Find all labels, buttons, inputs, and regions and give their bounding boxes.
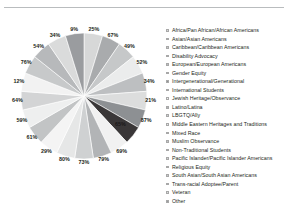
pie-chart-page: 25%67%49%52%34%21%87%65%69%79%73%80%29%6… bbox=[0, 0, 288, 215]
legend-item-label: Caribbean/Caribbean Americans bbox=[172, 43, 249, 52]
legend-item-label: Other bbox=[172, 197, 185, 206]
pie-slice-value-label: 21% bbox=[145, 97, 156, 103]
chart-legend: Africa/Pan African/African AmericansAsia… bbox=[166, 26, 286, 205]
legend-item-label: Asian/Asian Americans bbox=[172, 35, 227, 44]
legend-swatch-icon bbox=[166, 97, 169, 100]
legend-item[interactable]: LBGTQ/Ally bbox=[166, 111, 286, 120]
chart-area: 25%67%49%52%34%21%87%65%69%79%73%80%29%6… bbox=[8, 22, 160, 202]
legend-item[interactable]: Veteran bbox=[166, 188, 286, 197]
pie-slice-value-label: 59% bbox=[16, 117, 27, 123]
header-divider bbox=[4, 7, 284, 8]
legend-swatch-icon bbox=[166, 149, 169, 152]
legend-item-label: Jewish Heritage/Observance bbox=[172, 94, 240, 103]
legend-item[interactable]: Trans-racial Adoptee/Parent bbox=[166, 180, 286, 189]
legend-item[interactable]: Africa/Pan African/African Americans bbox=[166, 26, 286, 35]
legend-item-label: Trans-racial Adoptee/Parent bbox=[172, 180, 238, 189]
pie-slice-value-label: 52% bbox=[136, 59, 147, 65]
pie-slice-value-label: 79% bbox=[98, 156, 109, 162]
pie-slice-value-label: 73% bbox=[79, 159, 90, 165]
legend-item[interactable]: Latino/Latina bbox=[166, 103, 286, 112]
legend-item-label: Religious Equity bbox=[172, 163, 210, 172]
legend-swatch-icon bbox=[166, 80, 169, 83]
legend-item-label: Intergenerational/Generational bbox=[172, 77, 244, 86]
pie-slice-value-label: 34% bbox=[50, 32, 61, 38]
legend-swatch-icon bbox=[166, 157, 169, 160]
legend-swatch-icon bbox=[166, 55, 169, 58]
legend-item[interactable]: International Students bbox=[166, 86, 286, 95]
legend-item-label: Disability Advocacy bbox=[172, 52, 218, 61]
pie-slice-value-label: 9% bbox=[70, 26, 78, 32]
legend-item-label: Middle Eastern Heritages and Traditions bbox=[172, 120, 267, 129]
legend-item-label: International Students bbox=[172, 86, 224, 95]
legend-swatch-icon bbox=[166, 123, 169, 126]
legend-swatch-icon bbox=[166, 46, 169, 49]
legend-swatch-icon bbox=[166, 29, 169, 32]
pie-slice-value-label: 29% bbox=[41, 148, 52, 154]
legend-item[interactable]: Jewish Heritage/Observance bbox=[166, 94, 286, 103]
pie-slice-value-label: 61% bbox=[26, 134, 37, 140]
legend-item[interactable]: Other bbox=[166, 197, 286, 206]
legend-item[interactable]: Caribbean/Caribbean Americans bbox=[166, 43, 286, 52]
legend-item[interactable]: Muslim Observance bbox=[166, 137, 286, 146]
legend-item[interactable]: Religious Equity bbox=[166, 163, 286, 172]
legend-swatch-icon bbox=[166, 72, 169, 75]
legend-item-label: Latino/Latina bbox=[172, 103, 203, 112]
legend-item-label: Non-Traditional Students bbox=[172, 146, 231, 155]
pie-slice-value-label: 80% bbox=[59, 156, 70, 162]
legend-item[interactable]: South Asian/South Asian Americans bbox=[166, 171, 286, 180]
legend-item-label: Pacific Islander/Pacific Islander Americ… bbox=[172, 154, 272, 163]
legend-item[interactable]: European/European Americans bbox=[166, 60, 286, 69]
pie-slice-value-label: 76% bbox=[21, 59, 32, 65]
legend-item-label: Muslim Observance bbox=[172, 137, 219, 146]
legend-item-label: Africa/Pan African/African Americans bbox=[172, 26, 259, 35]
pie-chart: 25%67%49%52%34%21%87%65%69%79%73%80%29%6… bbox=[20, 32, 148, 160]
pie-slice-value-label: 65% bbox=[115, 121, 126, 127]
legend-swatch-icon bbox=[166, 38, 169, 41]
pie-slice-value-label: 34% bbox=[144, 78, 155, 84]
legend-item[interactable]: Gender Equity bbox=[166, 69, 286, 78]
legend-item-label: Veteran bbox=[172, 188, 190, 197]
legend-item[interactable]: Mixed Race bbox=[166, 129, 286, 138]
legend-swatch-icon bbox=[166, 132, 169, 135]
pie-slice-value-label: 25% bbox=[89, 26, 100, 32]
pie-slice-value-label: 87% bbox=[141, 117, 152, 123]
legend-item[interactable]: Disability Advocacy bbox=[166, 52, 286, 61]
pie-slice-value-label: 67% bbox=[108, 32, 119, 38]
pie-slice-value-label: 12% bbox=[13, 78, 24, 84]
legend-item[interactable]: Intergenerational/Generational bbox=[166, 77, 286, 86]
legend-item[interactable]: Non-Traditional Students bbox=[166, 146, 286, 155]
legend-item[interactable]: Middle Eastern Heritages and Traditions bbox=[166, 120, 286, 129]
pie-chart-svg: 25%67%49%52%34%21%87%65%69%79%73%80%29%6… bbox=[20, 32, 148, 160]
legend-item[interactable]: Asian/Asian Americans bbox=[166, 35, 286, 44]
pie-slice-value-label: 69% bbox=[116, 148, 127, 154]
legend-swatch-icon bbox=[166, 200, 169, 203]
pie-slices bbox=[21, 33, 147, 159]
pie-slice-value-label: 64% bbox=[12, 97, 23, 103]
legend-swatch-icon bbox=[166, 140, 169, 143]
legend-item-label: Gender Equity bbox=[172, 69, 206, 78]
legend-swatch-icon bbox=[166, 114, 169, 117]
legend-swatch-icon bbox=[166, 106, 169, 109]
legend-swatch-icon bbox=[166, 174, 169, 177]
legend-item[interactable]: Pacific Islander/Pacific Islander Americ… bbox=[166, 154, 286, 163]
legend-item-label: LBGTQ/Ally bbox=[172, 111, 200, 120]
pie-slice-value-label: 49% bbox=[124, 43, 135, 49]
pie-slice-value-label: 54% bbox=[33, 43, 44, 49]
legend-swatch-icon bbox=[166, 191, 169, 194]
legend-item-label: South Asian/South Asian Americans bbox=[172, 171, 257, 180]
legend-swatch-icon bbox=[166, 183, 169, 186]
legend-swatch-icon bbox=[166, 166, 169, 169]
legend-swatch-icon bbox=[166, 63, 169, 66]
legend-item-label: Mixed Race bbox=[172, 129, 200, 138]
legend-item-label: European/European Americans bbox=[172, 60, 246, 69]
legend-swatch-icon bbox=[166, 89, 169, 92]
